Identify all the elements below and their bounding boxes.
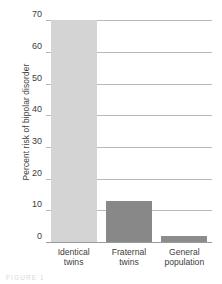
x-axis-category-label-line: Fraternal (101, 247, 156, 257)
x-axis-category-label-line: General (157, 247, 212, 257)
y-tick-label: 30 (12, 136, 42, 146)
x-axis-category-label: Generalpopulation (157, 247, 212, 268)
x-axis-category-label-line: population (157, 257, 212, 267)
y-tick-label: 10 (12, 199, 42, 209)
y-tick-label: 50 (12, 73, 42, 83)
x-axis-category-label-line: twins (101, 257, 156, 267)
x-axis-category-label: Fraternaltwins (101, 247, 156, 268)
y-tick-label: 60 (12, 41, 42, 51)
bar (51, 20, 97, 242)
bar (106, 201, 152, 242)
x-axis-line (46, 242, 212, 243)
y-tick-label: 20 (12, 168, 42, 178)
y-tick-label: 40 (12, 104, 42, 114)
y-tick-label: 70 (12, 9, 42, 19)
x-axis-category-label-line: Identical (46, 247, 101, 257)
x-axis-category-label-line: twins (46, 257, 101, 267)
y-tick-label: 0 (12, 231, 42, 241)
bars-layer (46, 14, 212, 242)
y-axis-tick-labels: 010203040506070 (8, 0, 42, 284)
figure-caption: FIGURE 1 (6, 274, 45, 281)
bar-chart-figure: Percent risk of bipolar disorder 0102030… (0, 0, 222, 284)
x-axis-category-label: Identicaltwins (46, 247, 101, 268)
